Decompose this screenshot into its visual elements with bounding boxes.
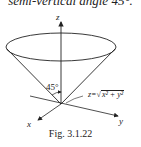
figure-caption: Fig. 3.1.22 bbox=[0, 128, 141, 139]
equation-radicand: x² + y² bbox=[101, 90, 124, 99]
equation-pointer bbox=[66, 96, 83, 103]
cone-equation: z=√x² + y² bbox=[88, 90, 124, 99]
angle-arc bbox=[52, 92, 61, 95]
equation-lhs: z= bbox=[88, 90, 97, 99]
cone-left-side bbox=[7, 49, 61, 104]
z-axis-label: z bbox=[56, 13, 60, 22]
y-axis-label: y bbox=[119, 117, 123, 126]
x-axis bbox=[38, 104, 61, 120]
angle-label: 45° bbox=[46, 83, 59, 92]
